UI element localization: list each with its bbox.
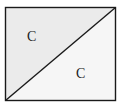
upper-left-label: C	[27, 29, 36, 44]
lower-right-label: C	[76, 66, 85, 81]
diagonal-rectangle-diagram: C C	[0, 0, 124, 108]
